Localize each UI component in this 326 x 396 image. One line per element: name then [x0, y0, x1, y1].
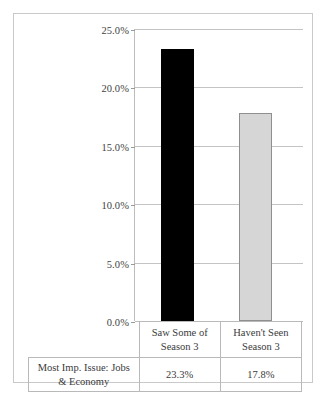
- table-row-header: Saw Some of Season 3 Haven't Seen Season…: [29, 322, 302, 358]
- ytick-label-20: 20.0%: [101, 83, 129, 94]
- chart-figure: 25.0% 20.0% 15.0% 10.0% 5.0% 0.0%: [13, 13, 313, 383]
- category-label-line2: Season 3: [161, 341, 199, 352]
- ytick-label-5: 5.0%: [107, 258, 129, 269]
- tick-mark-15: [131, 147, 135, 148]
- tick-mark-25: [131, 30, 135, 31]
- tick-mark-5: [131, 264, 135, 265]
- table-header-havent-seen-season-3: Haven't Seen Season 3: [220, 322, 301, 358]
- gridline-25: 25.0%: [135, 29, 303, 30]
- ytick-label-10: 10.0%: [101, 200, 129, 211]
- table-header-saw-some-of-season-3: Saw Some of Season 3: [139, 322, 220, 358]
- plot-area: 25.0% 20.0% 15.0% 10.0% 5.0% 0.0%: [134, 29, 303, 321]
- bar-havent-seen-season-3: [239, 113, 272, 321]
- category-label-line1: Haven't Seen: [233, 327, 288, 338]
- ytick-label-15: 15.0%: [101, 141, 129, 152]
- table-row-label: Most Imp. Issue: Jobs & Economy: [29, 358, 140, 392]
- tick-mark-20: [131, 88, 135, 89]
- data-table: Saw Some of Season 3 Haven't Seen Season…: [28, 321, 302, 392]
- category-label-line1: Saw Some of: [152, 327, 208, 338]
- table-corner-cell: [29, 322, 140, 358]
- table-value-havent-seen-season-3: 17.8%: [220, 358, 301, 392]
- bar-saw-some-of-season-3: [161, 49, 194, 321]
- row-label-line1: Most Imp. Issue: Jobs: [38, 362, 130, 373]
- tick-mark-10: [131, 205, 135, 206]
- table-row-values: Most Imp. Issue: Jobs & Economy 23.3% 17…: [29, 358, 302, 392]
- category-label-line2: Season 3: [242, 341, 280, 352]
- table-value-saw-some-of-season-3: 23.3%: [139, 358, 220, 392]
- ytick-label-25: 25.0%: [101, 25, 129, 36]
- row-label-line2: & Economy: [58, 376, 109, 387]
